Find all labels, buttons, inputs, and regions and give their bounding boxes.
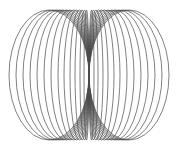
coil-loop-right-2 [89, 10, 155, 140]
coil-loop-left-8 [64, 10, 89, 140]
coil-loop-right-8 [89, 10, 114, 140]
coil-loop-left-2 [23, 10, 89, 140]
coil-loops [9, 10, 169, 140]
coil-loop-left-10 [75, 10, 89, 140]
coil-loop-right-1 [89, 10, 162, 140]
coil-loop-right-10 [89, 10, 103, 140]
coil-loop-left-1 [16, 10, 89, 140]
toroidal-coil-drawing [0, 0, 179, 151]
